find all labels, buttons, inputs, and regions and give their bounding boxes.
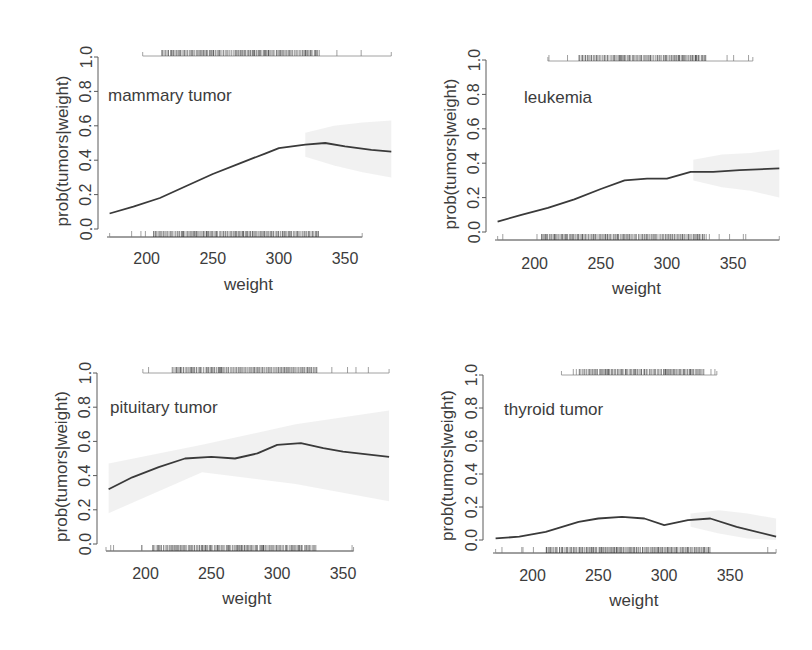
x-axis: 200250300350weight [493, 553, 776, 610]
x-tick-label: 350 [717, 567, 744, 584]
x-tick-label: 300 [654, 255, 681, 272]
y-axis-label: prob(tumors|weight) [52, 391, 71, 542]
x-axis-label: weight [223, 275, 273, 294]
x-tick-label: 300 [266, 250, 293, 267]
x-tick-label: 200 [521, 255, 548, 272]
rug-bottom [110, 231, 363, 237]
x-axis-label: weight [608, 591, 658, 610]
rug-bottom [106, 545, 354, 551]
y-tick-label: 0.6 [78, 115, 95, 137]
y-tick-label: 0.6 [77, 430, 94, 452]
confidence-band [693, 149, 779, 197]
y-tick-label: 0.8 [463, 397, 480, 419]
y-tick-label: 0.0 [466, 221, 483, 243]
panel-pituitary-tumor: 0.00.20.40.60.81.0prob(tumors|weight)200… [52, 362, 390, 608]
y-axis: 0.00.20.40.60.81.0prob(tumors|weight) [441, 49, 487, 243]
y-axis: 0.00.20.40.60.81.0prob(tumors|weight) [438, 364, 484, 551]
x-tick-label: 350 [720, 255, 747, 272]
y-tick-label: 1.0 [77, 362, 94, 384]
x-tick-label: 300 [264, 565, 291, 582]
panel-mammary-tumor: 0.00.20.40.60.81.0prob(tumors|weight)200… [53, 46, 392, 294]
y-axis: 0.00.20.40.60.81.0prob(tumors|weight) [52, 362, 98, 555]
x-axis-label: weight [611, 279, 661, 298]
y-axis-label: prob(tumors|weight) [441, 79, 460, 230]
y-tick-label: 0.2 [463, 496, 480, 518]
panel-title: leukemia [524, 88, 593, 107]
panel-leukemia: 0.00.20.40.60.81.0prob(tumors|weight)200… [441, 49, 780, 298]
tumor-probability-figure: 0.00.20.40.60.81.0prob(tumors|weight)200… [0, 0, 812, 650]
y-tick-label: 0.0 [78, 218, 95, 240]
rug-top [143, 367, 389, 373]
panel-title: pituitary tumor [110, 398, 218, 417]
y-tick-label: 0.8 [466, 83, 483, 105]
x-tick-label: 300 [651, 567, 678, 584]
x-axis: 200250300350weight [106, 551, 356, 608]
x-tick-label: 250 [199, 250, 226, 267]
x-tick-label: 350 [330, 565, 357, 582]
y-tick-label: 0.4 [78, 149, 95, 171]
y-tick-label: 0.6 [463, 430, 480, 452]
x-tick-label: 200 [133, 250, 160, 267]
x-tick-label: 200 [132, 565, 159, 582]
y-tick-label: 1.0 [466, 49, 483, 71]
y-tick-label: 0.0 [463, 529, 480, 551]
y-tick-label: 0.2 [466, 186, 483, 208]
y-tick-label: 0.6 [466, 118, 483, 140]
x-axis: 200250300350weight [107, 237, 362, 294]
y-axis: 0.00.20.40.60.81.0prob(tumors|weight) [53, 46, 99, 240]
x-tick-label: 250 [585, 567, 612, 584]
panel-thyroid-tumor: 0.00.20.40.60.81.0prob(tumors|weight)200… [438, 364, 777, 610]
y-axis-label: prob(tumors|weight) [53, 76, 72, 227]
y-tick-label: 0.4 [466, 152, 483, 174]
rug-top [143, 50, 392, 56]
x-axis-label: weight [221, 589, 271, 608]
y-tick-label: 0.4 [463, 463, 480, 485]
x-tick-label: 200 [519, 567, 546, 584]
x-tick-label: 250 [198, 565, 225, 582]
rug-bottom [498, 234, 780, 240]
x-tick-label: 350 [332, 250, 359, 267]
y-tick-label: 0.2 [78, 183, 95, 205]
y-tick-label: 0.8 [77, 396, 94, 418]
rug-bottom [496, 547, 776, 553]
y-tick-label: 0.0 [77, 533, 94, 555]
rug-top [561, 369, 716, 375]
confidence-band [305, 121, 391, 178]
x-tick-label: 250 [587, 255, 614, 272]
panel-title: mammary tumor [108, 86, 232, 105]
y-tick-label: 1.0 [463, 364, 480, 386]
y-tick-label: 1.0 [78, 46, 95, 68]
panel-title: thyroid tumor [504, 400, 604, 419]
rug-top [548, 55, 753, 61]
y-tick-label: 0.4 [77, 464, 94, 486]
x-axis: 200250300350weight [495, 240, 779, 298]
y-tick-label: 0.2 [77, 499, 94, 521]
confidence-band [109, 411, 390, 514]
y-tick-label: 0.8 [78, 80, 95, 102]
y-axis-label: prob(tumors|weight) [438, 390, 457, 541]
